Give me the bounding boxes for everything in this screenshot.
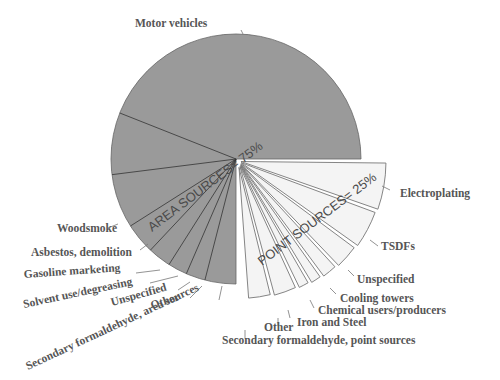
leader-line bbox=[330, 288, 336, 294]
label-gasoline: Gasoline marketing bbox=[23, 261, 121, 281]
leader-line bbox=[310, 300, 314, 308]
leader-line bbox=[241, 30, 243, 34]
leader-line bbox=[219, 286, 222, 300]
leader-line bbox=[136, 270, 160, 273]
label-motor-vehicles: Motor vehicles bbox=[135, 17, 208, 29]
leader-line bbox=[288, 310, 290, 318]
label-electroplating: Electroplating bbox=[400, 187, 470, 200]
label-iron: Iron and Steel bbox=[297, 316, 366, 328]
leader-line bbox=[348, 270, 354, 276]
label-asbestos: Asbestos, demolition bbox=[31, 246, 133, 258]
label-woodsmoke: Woodsmoke bbox=[57, 222, 117, 234]
label-point-unspecified: Unspecified bbox=[357, 273, 415, 286]
label-point-other: Other bbox=[264, 321, 293, 333]
leader-line bbox=[370, 240, 378, 246]
pie-chart: AREA SOURCES= 75% POINT SOURCES= 25% Mot… bbox=[0, 0, 500, 380]
label-tsdfs: TSDFs bbox=[381, 240, 415, 252]
label-point-secondary: Secondary formaldehyde, point sources bbox=[222, 334, 416, 347]
